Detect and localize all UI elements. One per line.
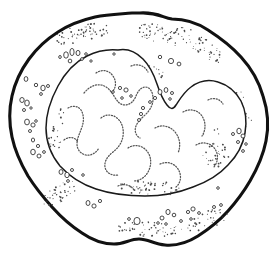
granule-39	[166, 209, 170, 214]
granule-46	[198, 212, 201, 215]
granule-40	[172, 213, 176, 217]
granule-60	[121, 97, 124, 100]
granule-15	[40, 93, 43, 96]
granule-22	[29, 130, 32, 133]
granule-34	[92, 204, 96, 208]
granule-70	[217, 187, 220, 190]
granule-26	[31, 149, 36, 155]
granule-8	[158, 55, 161, 58]
granule-53	[237, 141, 240, 144]
granule-33	[86, 201, 90, 206]
granule-50	[232, 133, 235, 136]
granule-43	[180, 220, 183, 223]
granule-57	[124, 88, 128, 92]
granule-18	[23, 109, 26, 112]
granule-4	[81, 58, 84, 61]
granule-6	[59, 56, 62, 59]
granule-17	[25, 100, 30, 106]
cell-illustration-figure	[0, 0, 274, 273]
granule-30	[65, 172, 69, 177]
granule-5	[85, 53, 88, 56]
granule-54	[245, 143, 248, 146]
granule-2	[76, 50, 80, 55]
granule-49	[220, 204, 223, 207]
granule-62	[164, 88, 168, 93]
granule-9	[168, 58, 173, 63]
granule-44	[186, 210, 189, 213]
granule-35	[98, 199, 101, 202]
cell-diagram-svg	[0, 0, 274, 273]
granule-19	[30, 107, 32, 109]
granule-31	[71, 169, 74, 172]
granule-28	[43, 151, 46, 154]
granule-71	[82, 174, 85, 177]
granule-3	[68, 59, 72, 63]
granule-64	[153, 96, 156, 99]
granule-58	[112, 91, 115, 94]
granule-38	[160, 216, 164, 220]
granule-25	[36, 144, 39, 147]
granule-37	[134, 217, 140, 224]
granule-63	[171, 92, 174, 95]
granule-20	[25, 119, 30, 125]
granule-10	[177, 62, 181, 66]
granule-66	[169, 98, 172, 101]
granule-61	[158, 90, 162, 95]
granule-0	[64, 52, 69, 58]
granule-41	[157, 222, 160, 225]
granule-27	[37, 154, 41, 158]
granule-67	[141, 106, 144, 109]
granule-69	[138, 119, 141, 122]
granule-1	[70, 48, 74, 55]
granule-14	[47, 85, 50, 88]
granule-32	[67, 180, 70, 183]
granule-65	[149, 101, 152, 104]
granule-11	[24, 77, 28, 82]
granule-42	[165, 223, 168, 226]
granule-68	[139, 112, 142, 115]
granule-52	[241, 134, 245, 138]
granule-23	[35, 120, 38, 123]
granule-21	[31, 123, 35, 127]
granule-47	[190, 218, 193, 221]
granule-7	[90, 60, 92, 62]
granule-13	[41, 85, 45, 91]
granule-55	[242, 150, 245, 153]
granule-16	[20, 98, 24, 103]
granule-24	[31, 138, 34, 142]
granule-51	[237, 128, 241, 134]
granule-12	[34, 83, 37, 86]
granule-48	[213, 206, 216, 209]
granule-56	[118, 86, 121, 89]
granule-72	[113, 53, 115, 55]
granule-29	[59, 170, 63, 175]
granule-45	[191, 207, 195, 211]
granule-59	[130, 95, 133, 98]
granule-36	[128, 218, 131, 221]
